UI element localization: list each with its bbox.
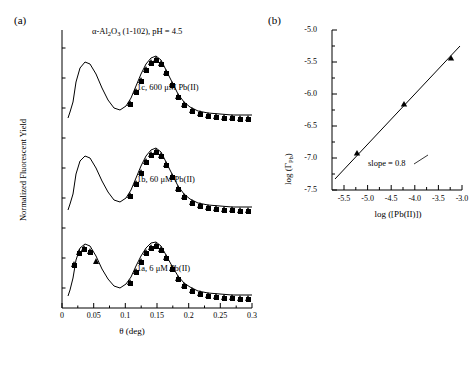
panel-b-ytick-1: -5.5 xyxy=(293,57,317,66)
panel-a-xtick-2: 0.1 xyxy=(115,311,135,320)
panel-b-xtick-4: -3.5 xyxy=(426,194,450,203)
panel-b-yticks xyxy=(332,30,337,190)
panel-a-xtick-6: 0.3 xyxy=(242,311,262,320)
panel-a-label: (a) xyxy=(14,14,26,26)
panel-b-ytick-4: -7.0 xyxy=(293,153,317,162)
panel-b-xtick-1: -5.0 xyxy=(356,194,380,203)
panel-b-ytick-3: -6.5 xyxy=(293,121,317,130)
panel-a-xtick-0: 0 xyxy=(52,311,72,320)
panel-b-annotation-leader xyxy=(414,153,434,169)
panel-b-ylabel-post: ) xyxy=(283,153,293,156)
panel-b-ytick-5: -7.5 xyxy=(293,185,317,194)
panel-a-xtick-5: 0.25 xyxy=(210,311,230,320)
panel-b-plot xyxy=(322,24,467,214)
panel-b-xticks xyxy=(344,185,462,190)
panel-b-ytick-0: -5.0 xyxy=(293,25,317,34)
figure-root: (a) α-Al2O3 (1-102), pH = 4.5 Normalized… xyxy=(0,0,473,366)
panel-b-slope-annotation: slope = 0.8 xyxy=(368,158,406,168)
panel-b-ylabel-pre: log (Γ xyxy=(283,163,293,185)
panel-a-xticks xyxy=(62,303,252,308)
panel-b-xtick-3: -4.0 xyxy=(403,194,427,203)
panel-a-xlabel: θ (deg) xyxy=(102,326,162,336)
panel-a-xtick-3: 0.15 xyxy=(147,311,167,320)
panel-b-xlabel: log ([Pb(II)]) xyxy=(343,209,453,219)
panel-b-label: (b) xyxy=(268,14,281,26)
panel-a-yticks xyxy=(62,48,66,288)
panel-b-ytick-2: -6.0 xyxy=(293,89,317,98)
curve-label-1c: 1c, 600 μM Pb(II) xyxy=(137,82,199,92)
panel-a-plot xyxy=(30,20,255,320)
curve-label-1b: 1b, 60 μM Pb(II) xyxy=(137,174,195,184)
curve-label-1a: 1a, 6 μM Pb(II) xyxy=(137,263,190,273)
panel-b-xtick-5: -3.0 xyxy=(450,194,473,203)
panel-a-xtick-4: 0.2 xyxy=(179,311,199,320)
panel-b-data-points xyxy=(354,55,454,156)
panel-a-ylabel: Normalized Fluorescent Yield xyxy=(18,50,28,290)
panel-b-xtick-0: -5.5 xyxy=(332,194,356,203)
panel-b-xtick-2: -4.5 xyxy=(379,194,403,203)
panel-a-xtick-1: 0.05 xyxy=(84,311,104,320)
